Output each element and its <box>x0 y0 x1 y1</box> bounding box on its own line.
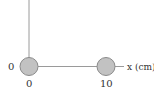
tick-label-0: 0 <box>26 78 32 89</box>
charge-sphere-1 <box>20 58 38 76</box>
charge-diagram: 0 0 10 x (cm) <box>0 0 154 96</box>
charge-sphere-2 <box>97 58 115 76</box>
origin-label: 0 <box>8 61 14 72</box>
x-axis-label: x (cm) <box>127 62 154 72</box>
tick-label-10: 10 <box>100 78 113 89</box>
